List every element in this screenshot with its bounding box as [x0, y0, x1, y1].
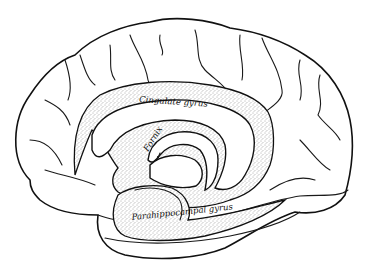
brain-illustration: Cingulate gyrus Fornix Parahippocampal g… [0, 0, 367, 272]
brain-diagram: Cingulate gyrus Fornix Parahippocampal g… [0, 0, 367, 272]
